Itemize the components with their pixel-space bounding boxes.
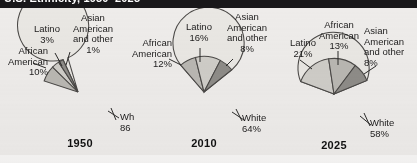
label-asian-american-other-2025: Asian American and other 8% (364, 26, 417, 68)
label-asian-american-other-1950: Asian American and other 1% (63, 13, 123, 55)
label-asian-american-other-2010: Asian American and other 8% (216, 12, 278, 54)
label-african-american-2025: African American 13% (308, 20, 370, 52)
year-label-2010: 2010 (174, 137, 234, 149)
pie-chart-2025: Latino 21% African American 13% Asian Am… (272, 8, 417, 163)
figure-title-bar: U.S. Ethnicity, 1950–2025 (0, 0, 417, 8)
label-african-american-2010: African American 12% (120, 38, 172, 70)
year-label-2025: 2025 (304, 139, 364, 151)
year-label-1950: 1950 (50, 137, 110, 149)
label-african-american-1950: African American 10% (0, 46, 48, 78)
label-white-2025: White 58% (370, 118, 412, 139)
figure-title: U.S. Ethnicity, 1950–2025 (4, 0, 140, 4)
pie-chart-1950: Latino 3% Asian American and other 1% Af… (0, 8, 140, 163)
figure-ethnicity-pies: U.S. Ethnicity, 1950–2025 (0, 0, 417, 163)
pie-chart-2010: Latino 16% Asian American and other 8% A… (132, 8, 277, 163)
